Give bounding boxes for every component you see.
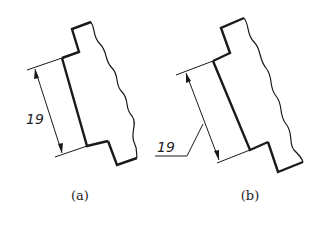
dimension-line-b	[186, 73, 219, 160]
dimension-text-a: 19	[26, 111, 44, 127]
part-inner-edge-b	[213, 61, 268, 150]
drawing-canvas: 19 (a) 19 (b)	[0, 0, 319, 226]
part-inner-edge-a	[62, 58, 108, 146]
arrowhead-top-b	[186, 73, 191, 83]
arrowhead-top-a	[34, 69, 39, 79]
arrowhead-bottom-a	[58, 143, 63, 153]
break-line-b	[244, 18, 303, 162]
extension-line-top-a	[27, 58, 62, 70]
figure-b: 19 (b)	[155, 18, 303, 203]
caption-b: (b)	[241, 188, 259, 203]
extension-line-bottom-b	[217, 150, 250, 163]
figure-a: 19 (a)	[26, 22, 137, 203]
break-line-a	[91, 22, 137, 158]
extension-line-top-b	[176, 61, 213, 75]
arrowhead-bottom-b	[214, 150, 219, 160]
dimension-text-b: 19	[157, 139, 175, 155]
caption-a: (a)	[71, 188, 89, 203]
